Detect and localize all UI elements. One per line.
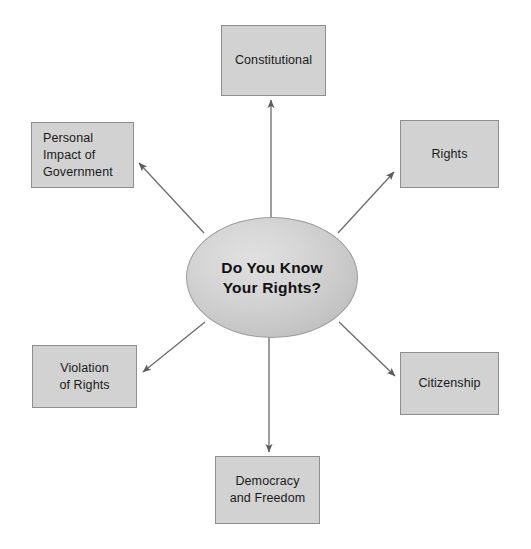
connector-hub-to-personal-impact-of-government <box>139 163 204 233</box>
node-rights-label: Rights <box>431 146 467 163</box>
node-violation-of-rights-label: Violation of Rights <box>59 360 109 394</box>
node-democracy-and-freedom[interactable]: Democracy and Freedom <box>215 456 320 524</box>
connector-hub-to-citizenship <box>339 322 395 376</box>
node-constitutional[interactable]: Constitutional <box>221 25 326 96</box>
node-personal-impact-of-government[interactable]: Personal Impact of Government <box>31 122 134 188</box>
node-constitutional-label: Constitutional <box>235 52 312 69</box>
node-personal-impact-of-government-label: Personal Impact of Government <box>43 130 113 181</box>
node-citizenship-label: Citizenship <box>418 375 480 392</box>
node-violation-of-rights[interactable]: Violation of Rights <box>32 345 137 408</box>
diagram-canvas: Constitutional Rights Citizenship Democr… <box>0 0 531 549</box>
connector-hub-to-rights <box>338 172 394 233</box>
node-democracy-and-freedom-label: Democracy and Freedom <box>230 473 305 507</box>
node-central-hub-label: Do You Know Your Rights? <box>221 258 323 298</box>
connector-hub-to-violation-of-rights <box>143 322 205 372</box>
node-central-hub[interactable]: Do You Know Your Rights? <box>186 217 358 338</box>
node-citizenship[interactable]: Citizenship <box>400 352 499 415</box>
node-rights[interactable]: Rights <box>400 120 499 188</box>
